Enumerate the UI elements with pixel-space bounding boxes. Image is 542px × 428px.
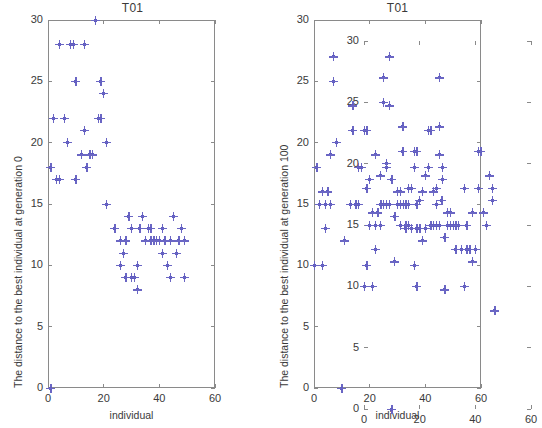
data-point xyxy=(485,171,494,180)
x-tick-label: 60 xyxy=(200,392,230,404)
y-tick-mark xyxy=(48,81,52,82)
x-tick-mark-top xyxy=(103,20,104,24)
data-point xyxy=(462,221,471,230)
y-tick-mark-right xyxy=(477,142,481,143)
y-tick-label: 15 xyxy=(283,197,309,209)
data-point xyxy=(412,282,421,291)
data-point xyxy=(457,245,466,254)
data-point xyxy=(446,221,455,230)
data-point xyxy=(488,196,497,205)
y-axis-label-left: The distance to the best individual at g… xyxy=(12,156,24,388)
data-point xyxy=(435,122,444,131)
y-tick-mark-right xyxy=(527,347,531,348)
y-tick-mark xyxy=(48,204,52,205)
y-tick-mark xyxy=(314,388,318,389)
x-tick-label: 60 xyxy=(466,392,496,404)
data-point xyxy=(449,221,458,230)
data-point xyxy=(468,208,477,217)
data-point xyxy=(404,221,413,230)
data-point xyxy=(460,184,469,193)
data-point xyxy=(376,221,385,230)
data-point xyxy=(465,245,474,254)
y-tick-mark xyxy=(314,265,318,266)
x-tick-mark-top xyxy=(215,20,216,24)
x-tick-mark xyxy=(475,405,476,409)
y-tick-label: 25 xyxy=(17,74,43,86)
data-point xyxy=(371,245,380,254)
data-point xyxy=(368,208,377,217)
y-tick-mark-right xyxy=(477,326,481,327)
y-tick-mark-right xyxy=(527,41,531,42)
y-tick-mark xyxy=(314,204,318,205)
y-tick-mark xyxy=(48,326,52,327)
data-point xyxy=(432,184,441,193)
y-tick-label: 25 xyxy=(283,74,309,86)
y-tick-label: 20 xyxy=(283,136,309,148)
x-tick-label: 60 xyxy=(516,413,542,425)
y-tick-label: 5 xyxy=(283,320,309,332)
data-point xyxy=(373,208,382,217)
x-tick-label: 0 xyxy=(33,392,63,404)
x-tick-label: 40 xyxy=(460,413,490,425)
x-tick-mark xyxy=(419,405,420,409)
x-tick-label: 40 xyxy=(144,392,174,404)
x-axis-label-left: individual xyxy=(48,409,215,421)
x-tick-label: 40 xyxy=(410,392,440,404)
data-point xyxy=(404,184,413,193)
plot-axes-left xyxy=(48,20,215,388)
data-point xyxy=(462,245,471,254)
y-tick-label: 20 xyxy=(333,157,359,169)
data-point xyxy=(362,184,371,193)
data-point xyxy=(382,159,391,168)
x-tick-label: 20 xyxy=(405,413,435,425)
y-tick-mark-right xyxy=(211,326,215,327)
y-tick-mark-right xyxy=(527,102,531,103)
x-tick-mark-top xyxy=(314,20,315,24)
x-tick-mark-top xyxy=(425,20,426,24)
data-point xyxy=(429,221,438,230)
data-point xyxy=(401,221,410,230)
y-tick-label: 30 xyxy=(333,34,359,46)
y-tick-mark xyxy=(314,142,318,143)
x-tick-mark xyxy=(159,384,160,388)
data-point xyxy=(446,208,455,217)
y-tick-mark xyxy=(48,265,52,266)
y-tick-mark-right xyxy=(527,286,531,287)
y-tick-mark xyxy=(364,347,368,348)
data-point xyxy=(368,282,377,291)
x-tick-mark-top xyxy=(48,20,49,24)
y-tick-label: 30 xyxy=(283,13,309,25)
data-point xyxy=(443,221,452,230)
y-tick-mark xyxy=(364,163,368,164)
y-tick-mark xyxy=(364,225,368,226)
x-tick-mark xyxy=(103,384,104,388)
y-tick-mark xyxy=(364,102,368,103)
y-tick-mark-right xyxy=(477,204,481,205)
data-point xyxy=(390,257,399,266)
data-point xyxy=(398,122,407,131)
y-tick-mark-right xyxy=(211,20,215,21)
data-point xyxy=(476,147,485,156)
x-tick-label: 0 xyxy=(349,413,379,425)
data-point xyxy=(468,257,477,266)
x-tick-mark-top xyxy=(159,20,160,24)
data-point xyxy=(435,221,444,230)
y-tick-mark-right xyxy=(527,163,531,164)
x-tick-mark-top xyxy=(531,41,532,45)
data-point xyxy=(371,221,380,230)
x-tick-mark-top xyxy=(369,20,370,24)
y-tick-label: 20 xyxy=(17,136,43,148)
data-point xyxy=(437,196,446,205)
y-tick-mark-right xyxy=(527,409,531,410)
data-point xyxy=(440,233,449,242)
y-tick-label: 25 xyxy=(333,95,359,107)
data-point xyxy=(479,208,488,217)
x-tick-mark xyxy=(48,384,49,388)
y-tick-mark xyxy=(364,286,368,287)
y-tick-label: 10 xyxy=(283,258,309,270)
data-point xyxy=(407,184,416,193)
x-tick-mark xyxy=(364,405,365,409)
x-tick-label: 20 xyxy=(355,392,385,404)
y-tick-mark xyxy=(48,20,52,21)
data-point xyxy=(451,221,460,230)
